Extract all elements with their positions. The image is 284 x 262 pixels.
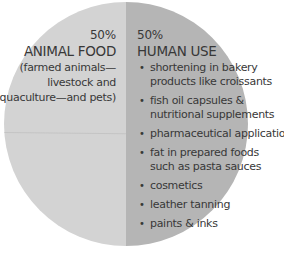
bullet-icon: • <box>139 217 145 231</box>
list-item: • leather tanning <box>137 198 284 212</box>
desc-line: (farmed animals— <box>0 60 116 75</box>
item-line: cosmetics <box>150 179 284 193</box>
item-line: pharmaceutical applications <box>150 127 284 141</box>
animal-food-title: ANIMAL FOOD <box>0 43 116 59</box>
item-line: nutritional supplements <box>150 108 284 122</box>
item-line: fish oil capsules & <box>150 94 284 108</box>
bullet-icon: • <box>139 127 145 141</box>
animal-food-description: (farmed animals— livestock and aquacultu… <box>0 60 116 105</box>
animal-food-label: 50% ANIMAL FOOD (farmed animals— livesto… <box>0 28 116 105</box>
human-use-title: HUMAN USE <box>137 43 284 59</box>
animal-food-percent: 50% <box>0 28 116 43</box>
bullet-icon: • <box>139 94 145 108</box>
list-item: • fish oil capsules & nutritional supple… <box>137 94 284 122</box>
bullet-icon: • <box>139 146 145 160</box>
desc-line: aquaculture—and pets) <box>0 90 116 105</box>
human-use-list: • shortening in bakery products like cro… <box>137 61 284 231</box>
bullet-icon: • <box>139 61 145 75</box>
item-line: shortening in bakery <box>150 61 284 75</box>
list-item: • cosmetics <box>137 179 284 193</box>
bullet-icon: • <box>139 179 145 193</box>
list-item: • shortening in bakery products like cro… <box>137 61 284 89</box>
list-item: • fat in prepared foods such as pasta sa… <box>137 146 284 174</box>
bullet-icon: • <box>139 198 145 212</box>
human-use-percent: 50% <box>137 28 284 43</box>
human-use-label: 50% HUMAN USE • shortening in bakery pro… <box>137 28 284 236</box>
list-item: • paints & inks <box>137 217 284 231</box>
item-line: fat in prepared foods <box>150 146 284 160</box>
list-item: • pharmaceutical applications <box>137 127 284 141</box>
desc-line: livestock and <box>0 75 116 90</box>
item-line: products like croissants <box>150 75 284 89</box>
item-line: leather tanning <box>150 198 284 212</box>
item-line: such as pasta sauces <box>150 160 284 174</box>
item-line: paints & inks <box>150 217 284 231</box>
